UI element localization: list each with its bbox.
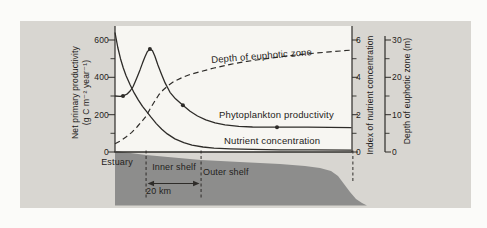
zone-label-outer-shelf: Outer shelf	[203, 167, 249, 177]
zone-label-inner-shelf: Inner shelf	[146, 162, 202, 172]
left-axis-minor-ticks	[111, 59, 116, 134]
left-axis-title-line1: Net primary productivity	[70, 33, 81, 153]
data-point-marker	[275, 125, 279, 129]
plot-area	[115, 26, 352, 152]
depth-tick-0: 0	[392, 147, 397, 157]
figure-canvas: Net primary productivity (g C m⁻² year⁻¹…	[0, 0, 487, 228]
data-point-marker	[181, 103, 185, 107]
depth-axis-minor-ticks	[385, 59, 390, 134]
depth-axis-title: Depth of euphotic zone (m)	[402, 26, 414, 156]
nutrient-tick-0: 0	[356, 147, 361, 157]
nutrient-tick-2: 2	[356, 110, 361, 120]
nutrient-tick-6: 6	[356, 35, 361, 45]
curve-label-phytoplankton-productivity: Phytoplankton productivity	[219, 109, 334, 120]
nutrient-tick-4: 4	[356, 72, 361, 82]
left-tick-400: 400	[83, 72, 109, 82]
left-tick-200: 200	[83, 110, 109, 120]
data-point-marker	[148, 47, 152, 51]
nutrient-axis-title: Index of nutrient concentration	[365, 28, 377, 163]
left-axis-title-line2: (g C m⁻² year⁻¹)	[80, 33, 91, 153]
nutrient-axis-minor-ticks	[352, 59, 357, 134]
depth-tick-10: 10	[392, 110, 402, 120]
depth-tick-20: 20	[392, 72, 402, 82]
depth-tick-30: 30	[392, 35, 402, 45]
scale-bar-label: 20 km	[146, 186, 171, 196]
curve-label-nutrient-concentration: Nutrient concentration	[224, 135, 320, 146]
seafloor-landmass	[115, 151, 367, 206]
zone-label-estuary: Estuary	[96, 157, 138, 167]
data-point-marker	[121, 94, 125, 98]
left-tick-0: 0	[83, 147, 109, 157]
left-axis-title: Net primary productivity (g C m⁻² year⁻¹…	[70, 33, 91, 153]
left-tick-600: 600	[83, 35, 109, 45]
